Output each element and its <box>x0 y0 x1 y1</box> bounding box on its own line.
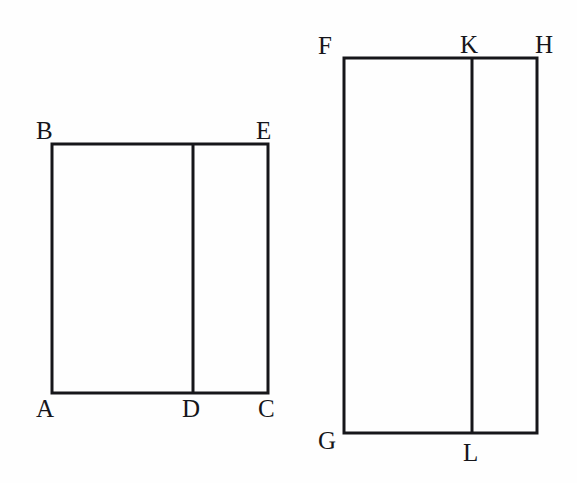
right-rectangle-outline <box>344 58 537 433</box>
vertex-label-c: C <box>258 396 275 421</box>
vertex-label-b: B <box>36 118 53 143</box>
vertex-label-h: H <box>535 32 553 57</box>
vertex-label-e: E <box>256 118 271 143</box>
left-rectangle-group <box>52 144 268 393</box>
figure-line-art <box>0 0 577 483</box>
vertex-label-g: G <box>318 428 336 453</box>
vertex-label-k: K <box>460 32 478 57</box>
left-rectangle-outline <box>52 144 268 393</box>
vertex-label-f: F <box>318 33 332 58</box>
vertex-label-l: L <box>463 440 478 465</box>
geometry-figure-canvas: B E A D C F K H G L <box>0 0 577 483</box>
vertex-label-d: D <box>182 396 200 421</box>
vertex-label-a: A <box>36 396 54 421</box>
right-rectangle-group <box>344 58 537 433</box>
